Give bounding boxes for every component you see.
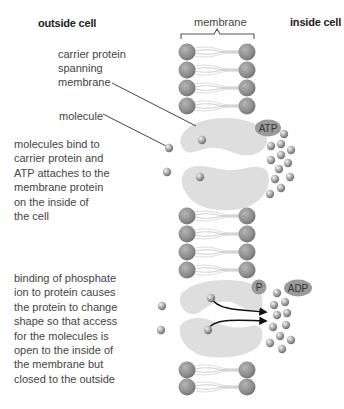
atp-label: ATP xyxy=(259,123,278,134)
carrier-protein-inside-open xyxy=(180,280,263,357)
phosphate-tag: P xyxy=(252,280,267,295)
lipid-bilayer-middle xyxy=(179,208,256,279)
atp-tag: ATP xyxy=(255,120,281,137)
phosphate-label: P xyxy=(256,282,263,293)
lipid-bilayer-top xyxy=(179,44,256,115)
adp-tag: ADP xyxy=(284,280,312,297)
membrane-transport-diagram: ATP P ADP xyxy=(0,0,344,409)
lipid-bilayer-bottom xyxy=(179,362,256,396)
molecule-pointer xyxy=(103,114,166,146)
carrier-protein-outside-open xyxy=(181,118,270,210)
membrane-bracket xyxy=(181,29,254,39)
adp-label: ADP xyxy=(288,283,309,294)
